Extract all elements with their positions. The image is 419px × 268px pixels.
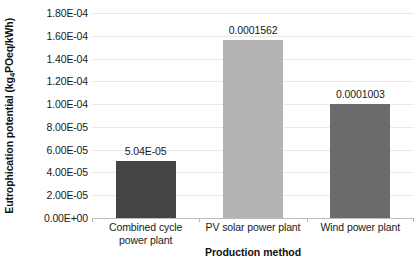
y-axis-tick-label: 1.20E-04	[47, 75, 88, 87]
x-axis-category-label: Wind power plant	[307, 221, 414, 234]
y-axis-tick-label: 1.80E-04	[47, 7, 88, 19]
y-axis-tick-label: 1.60E-04	[47, 30, 88, 42]
y-axis-tick-label: 1.00E-04	[47, 98, 88, 110]
bar-chart-figure: Eutrophication potential (kg4POeq/kWh) 1…	[0, 0, 419, 268]
x-axis-category-line: Combined cycle	[92, 221, 199, 234]
y-axis-tick-label: 2.00E-05	[47, 189, 88, 201]
gridline	[92, 13, 414, 14]
x-axis-category-label: PV solar power plant	[199, 221, 306, 234]
bar[interactable]: 0.0001562	[223, 40, 283, 218]
x-axis-category-label: Combined cyclepower plant	[92, 221, 199, 246]
bar[interactable]: 0.0001003	[330, 104, 390, 218]
y-axis-title: Eutrophication potential (kg4POeq/kWh)	[0, 0, 20, 232]
y-axis-title-head: Eutrophication potential (kg	[3, 77, 15, 214]
y-axis-title-text: Eutrophication potential (kg4POeq/kWh)	[3, 18, 17, 214]
y-axis-tick-label: 6.00E-05	[47, 144, 88, 156]
y-axis-tick-label: 0.00E+00	[44, 212, 88, 224]
bar-value-label: 0.0001562	[229, 24, 278, 36]
y-axis-tick-label: 1.40E-04	[47, 53, 88, 65]
y-axis-tick-label: 8.00E-05	[47, 121, 88, 133]
bar[interactable]: 5.04E-05	[116, 161, 176, 218]
plot-area: 5.04E-050.00015620.0001003	[92, 13, 414, 218]
x-axis-category-line: Wind power plant	[307, 221, 414, 234]
y-axis-tick-labels: 1.80E-041.60E-041.40E-041.20E-041.00E-04…	[20, 0, 92, 226]
bar-value-label: 0.0001003	[336, 88, 385, 100]
x-axis-category-line: power plant	[92, 234, 199, 247]
y-axis-title-tail: POeq/kWh)	[3, 18, 15, 73]
x-axis-category-line: PV solar power plant	[199, 221, 306, 234]
y-axis-tick-label: 4.00E-05	[47, 166, 88, 178]
x-axis-title: Production method	[92, 246, 414, 258]
x-axis-line	[92, 218, 414, 219]
y-axis-title-subscript: 4	[8, 73, 17, 77]
bar-value-label: 5.04E-05	[125, 145, 167, 157]
